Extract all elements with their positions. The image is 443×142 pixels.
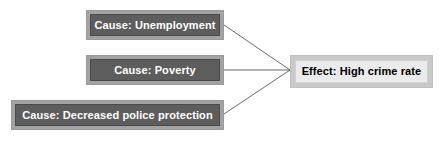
cause-node-plate: Cause: Decreased police protection (15, 104, 220, 126)
cause-node-police-protection[interactable]: Cause: Decreased police protection (11, 100, 224, 130)
effect-node-plate: Effect: High crime rate (295, 60, 428, 83)
connector-police-protection-to-effect (224, 70, 290, 114)
cause-node-label: Cause: Unemployment (94, 20, 215, 31)
cause-node-label: Cause: Decreased police protection (22, 110, 212, 121)
effect-node-high-crime-rate[interactable]: Effect: High crime rate (290, 55, 433, 88)
cause-effect-diagram: Cause: Unemployment Cause: Poverty Cause… (0, 0, 443, 142)
cause-node-label: Cause: Poverty (114, 65, 196, 76)
cause-node-plate: Cause: Unemployment (90, 14, 220, 36)
effect-node-label: Effect: High crime rate (302, 66, 422, 77)
cause-node-poverty[interactable]: Cause: Poverty (86, 55, 224, 85)
connector-unemployment-to-effect (224, 25, 290, 70)
cause-node-plate: Cause: Poverty (90, 59, 220, 81)
cause-node-unemployment[interactable]: Cause: Unemployment (86, 10, 224, 40)
